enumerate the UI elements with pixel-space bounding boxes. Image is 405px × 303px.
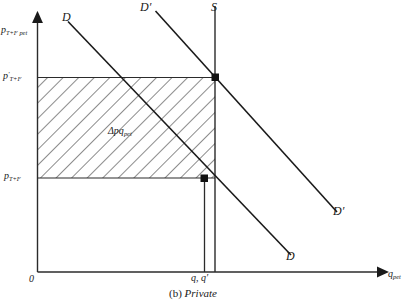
x-tick-label-q: q, q′: [191, 273, 208, 283]
y-axis-label: pT+F pet: [1, 25, 27, 35]
equilibrium-point-lower: [201, 175, 209, 183]
equilibrium-point-upper: [212, 74, 220, 82]
figure-caption: (b) Private: [169, 288, 217, 299]
x-axis-label: qpet: [388, 269, 401, 279]
curve-label-demand-top: D: [62, 11, 71, 23]
curve-label-demand-end: D: [286, 250, 295, 262]
delta-pq-area-label: Δpqpet: [108, 126, 132, 136]
y-tick-label-p-prime: p′T+F: [3, 71, 21, 81]
economics-diagram-private: pT+F pet qpet p′T+F pT+F 0 q, q′ D D′ S …: [0, 0, 405, 303]
origin-label: 0: [29, 274, 34, 284]
curve-label-supply: S: [211, 1, 217, 13]
curve-label-demand-prime-end: D′: [333, 205, 344, 217]
diagram-canvas: [0, 0, 405, 303]
y-tick-label-p: pT+F: [4, 171, 21, 181]
curve-label-demand-prime-top: D′: [140, 1, 151, 13]
